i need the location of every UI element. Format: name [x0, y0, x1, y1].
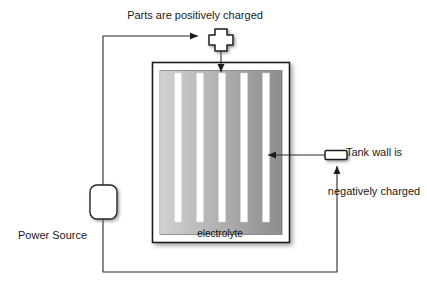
electroplating-diagram: Parts are positively charged Tank wall i… [0, 0, 427, 290]
electrolyte-label: electrolyte [197, 227, 243, 240]
power-source-label: Power Source [18, 229, 87, 242]
tank-wall-label-line1: Tank wall is [328, 146, 420, 159]
tank-wall-label-line2: negatively charged [328, 185, 420, 198]
plus-symbol [209, 29, 233, 51]
tank-wall-label: Tank wall is negatively charged [328, 120, 420, 224]
positive-charge-label: Parts are positively charged [127, 9, 263, 22]
power-source-box[interactable] [90, 185, 117, 219]
